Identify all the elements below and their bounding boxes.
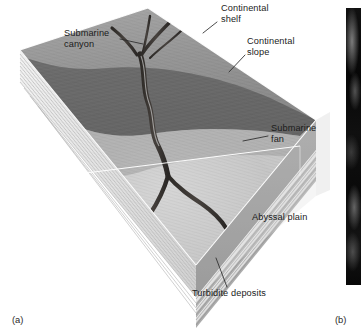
panel-tag-b: (b) [335, 314, 346, 325]
figure-container: Continental shelf Continental slope Subm… [0, 0, 361, 331]
panel-a-block-diagram: Continental shelf Continental slope Subm… [0, 0, 330, 331]
photograph-image [346, 8, 361, 285]
label-continental-shelf: Continental shelf [221, 3, 269, 24]
label-submarine-fan: Submarine fan [271, 123, 316, 144]
label-abyssal-plain: Abyssal plain [252, 212, 307, 223]
label-continental-slope: Continental slope [247, 36, 295, 57]
panel-b-photograph [346, 8, 361, 285]
label-submarine-canyon: Submarine canyon [64, 28, 109, 49]
label-turbidite-deposits: Turbidite deposits [192, 288, 266, 299]
panel-tag-a: (a) [12, 314, 23, 325]
